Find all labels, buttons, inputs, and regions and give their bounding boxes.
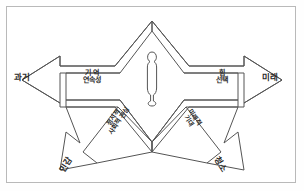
label-continuity: 연속성 [68, 77, 116, 84]
person-silhouette-icon [147, 52, 156, 106]
label-future: 미래 [262, 73, 278, 82]
label-memory-continuity: 기 억 연속성 [68, 70, 116, 85]
arrow-right [152, 21, 282, 152]
center-lower-left-edge [97, 152, 152, 163]
label-past: 과거 [14, 73, 30, 82]
label-choice: 선택 [202, 77, 242, 84]
arrow-left [22, 21, 152, 152]
diagram-canvas: 과거 미래 기 억 연속성 힘 선택 정서적 사회적 관심 미래적 기대 민감 … [0, 0, 304, 191]
label-power-choice: 힘 선택 [202, 70, 242, 85]
arrow-shapes [0, 0, 304, 191]
center-lower-right-edge [152, 152, 207, 163]
